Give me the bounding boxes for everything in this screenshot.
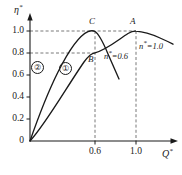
- y-tick-label-0.2: 0.2: [0, 114, 24, 124]
- y-tick-label-0.4: 0.4: [0, 92, 24, 102]
- y-tick-label-0.6: 0.6: [0, 70, 24, 80]
- point-label-b: B: [88, 55, 94, 64]
- x-axis-title: Q*: [162, 148, 173, 159]
- curve-annotation-n10: n*=1.0: [139, 40, 163, 50]
- n06-value: =0.6: [112, 51, 128, 61]
- y-axis-arrowhead: [27, 13, 32, 21]
- y-axis-title: η*: [14, 4, 22, 15]
- x-axis-title-superscript: *: [169, 147, 173, 155]
- x-tick-label-1.0: 1.0: [124, 147, 148, 157]
- y-tick-label-0: 0: [0, 136, 24, 146]
- series-marker-one: ①: [59, 62, 72, 75]
- guide-lines: [30, 31, 136, 141]
- point-label-c: C: [89, 17, 95, 26]
- axes: [30, 18, 173, 141]
- efficiency-flow-chart: η* Q* 1.0 0.8 0.6 0.4 0.2 0 0.6 1.0 C A …: [0, 0, 182, 175]
- y-tick-label-0.8: 0.8: [0, 48, 24, 58]
- y-axis-title-superscript: *: [19, 3, 23, 11]
- y-tick-label-1.0: 1.0: [0, 26, 24, 36]
- n10-value: =1.0: [147, 41, 163, 51]
- x-axis-arrowhead: [171, 138, 179, 143]
- x-tick-label-0.6: 0.6: [83, 147, 107, 157]
- series-marker-two: ②: [31, 61, 44, 74]
- curve-annotation-n06: n*=0.6: [104, 50, 128, 60]
- point-label-a: A: [130, 17, 136, 26]
